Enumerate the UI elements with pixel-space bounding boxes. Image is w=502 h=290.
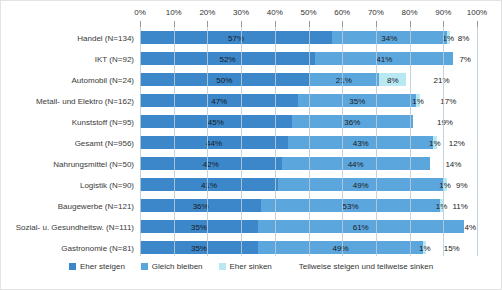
bar-segment-1: 57% xyxy=(140,31,332,44)
chart-row: Gesamt (N=956)44%43%1%12% xyxy=(140,132,477,153)
stacked-bar: 50%21%8%21% xyxy=(140,73,477,86)
bar-segment-1: 42% xyxy=(140,157,282,170)
axis-tick-label: 60% xyxy=(334,8,350,17)
segment-value-label: 49% xyxy=(353,180,369,189)
plot-area: 0%10%20%30%40%50%60%70%80%90%100%Handel … xyxy=(140,27,477,258)
bar-segment-2: 43% xyxy=(288,136,433,149)
category-label: Logistik (N=90) xyxy=(80,180,134,189)
bar-segment-1: 47% xyxy=(140,94,298,107)
segment-value-label: 11% xyxy=(452,201,467,210)
segment-value-label: 9% xyxy=(456,180,468,189)
chart-row: IKT (N=92)52%41%7% xyxy=(140,48,477,69)
bar-segment-2: 36% xyxy=(292,115,413,128)
legend-label: Teilweise steigen und teilweise sinken xyxy=(299,262,433,271)
segment-value-label: 1% xyxy=(436,201,448,210)
category-label: Sozial- u. Gesundheitsw. (N=111) xyxy=(16,222,134,231)
bar-segment-4: 12% xyxy=(437,136,477,149)
segment-value-label: 36% xyxy=(344,117,360,126)
segment-value-label: 44% xyxy=(206,138,222,147)
bar-segment-1: 35% xyxy=(140,241,258,254)
stacked-bar: 35%49%1%15% xyxy=(140,241,477,254)
chart-legend: Eher steigenGleich bleibenEher sinkenTei… xyxy=(1,262,501,271)
stacked-bar: 44%43%1%12% xyxy=(140,136,477,149)
bar-segment-2: 34% xyxy=(332,31,447,44)
category-label: IKT (N=92) xyxy=(95,54,134,63)
bar-segment-2: 49% xyxy=(278,178,443,191)
bar-segment-1: 35% xyxy=(140,220,258,233)
segment-value-label: 35% xyxy=(349,96,365,105)
axis-tick-label: 70% xyxy=(368,8,384,17)
bar-segment-4: 15% xyxy=(426,241,477,254)
segment-value-label: 47% xyxy=(211,96,227,105)
stacked-bar: 52%41%7% xyxy=(140,52,477,65)
bar-segment-2: 41% xyxy=(315,52,453,65)
segment-value-label: 57% xyxy=(228,33,244,42)
legend-item: Teilweise steigen und teilweise sinken xyxy=(288,262,433,271)
axis-tick-mark xyxy=(477,21,478,27)
legend-item: Eher sinken xyxy=(219,262,272,271)
bar-segment-4: 11% xyxy=(443,199,477,212)
segment-value-label: 50% xyxy=(216,75,232,84)
bar-segment-1: 36% xyxy=(140,199,261,212)
gridline xyxy=(477,27,478,256)
segment-value-label: 61% xyxy=(353,222,369,231)
bar-segment-4: 14% xyxy=(430,157,477,170)
bar-segment-4: 9% xyxy=(447,178,477,191)
category-label: Automobil (N=24) xyxy=(72,75,134,84)
category-label: Nahrungsmittel (N=50) xyxy=(53,159,134,168)
axis-tick-label: 40% xyxy=(267,8,283,17)
stacked-bar: 42%44%14% xyxy=(140,157,477,170)
segment-value-label: 21% xyxy=(336,75,352,84)
segment-value-label: 1% xyxy=(419,243,431,252)
bar-segment-3: 8% xyxy=(379,73,406,86)
legend-label: Eher sinken xyxy=(230,262,272,271)
segment-value-label: 21% xyxy=(434,75,450,84)
segment-value-label: 15% xyxy=(444,243,460,252)
segment-value-label: 52% xyxy=(220,54,236,63)
stacked-bar: 47%35%1%17% xyxy=(140,94,477,107)
bar-segment-1: 41% xyxy=(140,178,278,191)
segment-value-label: 1% xyxy=(439,180,451,189)
chart-row: Kunststoff (N=95)45%36%19% xyxy=(140,111,477,132)
bar-segment-2: 53% xyxy=(261,199,440,212)
axis-tick-label: 10% xyxy=(166,8,182,17)
bar-segment-1: 44% xyxy=(140,136,288,149)
segment-value-label: 44% xyxy=(348,159,364,168)
axis-tick-label: 30% xyxy=(233,8,249,17)
segment-value-label: 12% xyxy=(449,138,465,147)
category-label: Metall- und Elektro (N=162) xyxy=(36,96,134,105)
legend-swatch xyxy=(141,263,148,270)
bar-segment-1: 50% xyxy=(140,73,309,86)
stacked-bar-chart: 0%10%20%30%40%50%60%70%80%90%100%Handel … xyxy=(0,0,502,290)
bar-segment-4: 19% xyxy=(413,115,477,128)
segment-value-label: 35% xyxy=(191,243,207,252)
bar-segment-1: 45% xyxy=(140,115,292,128)
legend-swatch xyxy=(219,263,226,270)
bar-segment-2: 21% xyxy=(309,73,380,86)
axis-tick-label: 80% xyxy=(402,8,418,17)
segment-value-label: 41% xyxy=(376,54,392,63)
bar-segment-2: 35% xyxy=(298,94,416,107)
legend-label: Gleich bleiben xyxy=(152,262,203,271)
legend-swatch xyxy=(288,263,295,270)
bar-segment-2: 61% xyxy=(258,220,464,233)
chart-row: Metall- und Elektro (N=162)47%35%1%17% xyxy=(140,90,477,111)
chart-row: Logistik (N=90)41%49%1%9% xyxy=(140,174,477,195)
segment-value-label: 1% xyxy=(429,138,441,147)
chart-row: Nahrungsmittel (N=50)42%44%14% xyxy=(140,153,477,174)
legend-swatch xyxy=(69,263,76,270)
stacked-bar: 45%36%19% xyxy=(140,115,477,128)
bar-segment-4: 7% xyxy=(453,52,477,65)
chart-row: Gastronomie (N=81)35%49%1%15% xyxy=(140,237,477,258)
legend-item: Gleich bleiben xyxy=(141,262,203,271)
chart-row: Sozial- u. Gesundheitsw. (N=111)35%61%4% xyxy=(140,216,477,237)
bar-segment-4: 4% xyxy=(464,220,477,233)
bar-segment-4: 21% xyxy=(406,73,477,86)
bar-segment-1: 52% xyxy=(140,52,315,65)
category-label: Handel (N=134) xyxy=(77,33,134,42)
segment-value-label: 4% xyxy=(464,222,476,231)
segment-value-label: 35% xyxy=(191,222,207,231)
segment-value-label: 1% xyxy=(412,96,424,105)
axis-tick-label: 50% xyxy=(300,8,316,17)
bar-segment-2: 44% xyxy=(282,157,430,170)
